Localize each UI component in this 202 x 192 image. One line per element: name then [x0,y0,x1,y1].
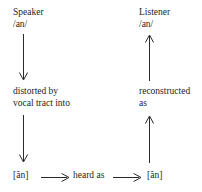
distortion-line-1: distorted by [13,86,58,96]
speaker-phonetic-node: [ãn] [13,170,28,182]
listener-phonemic-label: /an/ [139,19,170,31]
listener-role-label: Listener [139,7,170,17]
arrow-down-distortion-to-phonetic-icon [18,115,29,163]
speech-chain-diagram: Speaker /an/ Listener /an/ distorted by … [0,0,202,192]
heard-as-label: heard as [73,170,104,182]
speaker-node: Speaker /an/ [13,7,44,30]
distortion-line-2: vocal tract into [13,98,70,110]
arrow-down-speaker-to-distortion-icon [18,34,29,81]
reconstruction-line-2: as [139,98,190,110]
speaker-role-label: Speaker [13,7,44,17]
arrow-right-speaker-to-heard-as-icon [41,172,69,183]
listener-phonetic-node: [ãn] [147,170,162,182]
reconstruction-process-node: reconstructed as [139,86,190,109]
arrow-up-reconstruction-to-listener-icon [144,34,155,81]
arrow-up-phonetic-to-reconstruction-icon [144,115,155,163]
speaker-phonemic-label: /an/ [13,19,44,31]
arrow-right-heard-as-to-listener-icon [113,172,141,183]
listener-node: Listener /an/ [139,7,170,30]
distortion-process-node: distorted by vocal tract into [13,86,70,109]
reconstruction-line-1: reconstructed [139,86,190,96]
